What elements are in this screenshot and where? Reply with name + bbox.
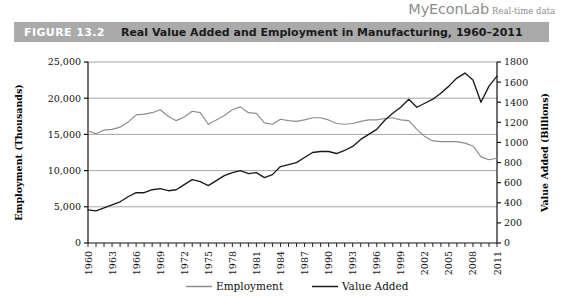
x-axis-tick-label: 1987 [299,251,310,275]
y-axis-right-ticks: 020040060080010001200140016001800 [497,56,528,248]
figure-title-text: Real Value Added and Employment in Manuf… [121,26,523,39]
y-axis-right-tick-label: 400 [504,197,522,208]
x-axis-tick-label: 1993 [347,251,358,275]
chart-legend: EmploymentValue Added [186,280,409,292]
line-chart: 05,00010,00015,00020,00025,000 020040060… [0,44,563,306]
x-axis-ticks: 1960196319661969197219751978198119841987… [83,243,503,275]
y-axis-right-tick-label: 1800 [504,56,528,67]
y-axis-right-tick-label: 1000 [504,137,528,148]
y-axis-left-ticks: 05,00010,00015,00020,00025,000 [48,56,88,248]
x-axis-tick-label: 1972 [179,251,190,275]
x-axis-tick-label: 2002 [419,251,430,275]
gridlines [88,62,497,243]
y-axis-left-tick-label: 20,000 [48,93,81,104]
myeconlab-logo: MyEconLab [408,1,489,17]
x-axis-tick-label: 1984 [275,251,286,275]
axis-lines [88,62,497,243]
x-axis-tick-label: 1990 [323,251,334,275]
legend-label-value-added: Value Added [341,280,409,292]
x-axis-tick-label: 2011 [492,251,503,275]
figure-container: MyEconLabReal-time data FIGURE 13.2 Real… [0,0,563,306]
x-axis-tick-label: 1999 [395,251,406,275]
y-axis-left-tick-label: 15,000 [48,129,81,140]
y-axis-left-tick-label: 0 [75,237,81,248]
x-axis-tick-label: 1963 [107,251,118,275]
y-axis-right-title: Value Added (Billions) [539,93,550,213]
series-line-value-added [88,73,497,211]
y-axis-right-tick-label: 1400 [504,97,528,108]
y-axis-right-tick-label: 200 [504,217,522,228]
x-axis-tick-label: 1981 [251,251,262,275]
legend-label-employment: Employment [216,280,284,292]
x-axis-tick-label: 2008 [467,251,478,275]
figure-title-banner: FIGURE 13.2 Real Value Added and Employm… [14,22,549,42]
x-axis-tick-label: 1975 [203,251,214,275]
x-axis-tick-label: 1969 [155,251,166,275]
y-axis-left-title: Employment (Thousands) [13,84,24,221]
figure-number-label: FIGURE 13.2 [24,26,105,39]
y-axis-right-tick-label: 1600 [504,77,528,88]
realtime-data-label: Real-time data [492,6,555,16]
myeconlab-brand-bar: MyEconLabReal-time data [0,0,563,20]
y-axis-right-tick-label: 800 [504,157,522,168]
data-series [88,73,497,211]
series-line-employment [88,107,497,160]
axis-titles: Employment (Thousands)Value Added (Billi… [13,84,550,221]
y-axis-left-tick-label: 25,000 [48,56,81,67]
x-axis-tick-label: 1996 [371,251,382,275]
x-axis-tick-label: 1978 [227,251,238,275]
x-axis-tick-label: 2005 [443,251,454,275]
y-axis-left-tick-label: 5,000 [54,201,81,212]
y-axis-right-tick-label: 600 [504,177,522,188]
y-axis-left-tick-label: 10,000 [48,165,81,176]
x-axis-tick-label: 1966 [131,251,142,275]
x-axis-tick-label: 1960 [83,251,94,275]
chart-area: 05,00010,00015,00020,00025,000 020040060… [0,44,563,306]
y-axis-right-tick-label: 1200 [504,117,528,128]
y-axis-right-tick-label: 0 [504,237,510,248]
